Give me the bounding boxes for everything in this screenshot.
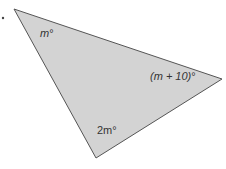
marker-dot [2,17,4,19]
angle-label-bottom: 2m° [97,124,117,136]
angle-label-right: (m + 10)° [150,70,196,82]
triangle-diagram [0,0,226,169]
angle-label-top: m° [40,27,54,39]
